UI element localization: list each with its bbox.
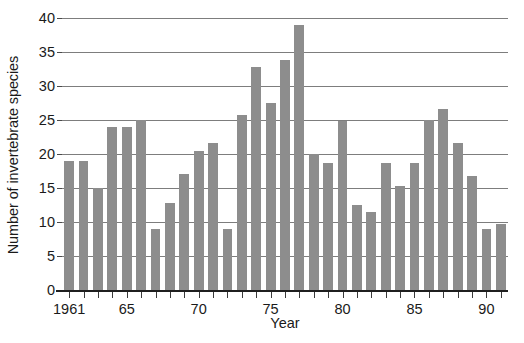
x-tick-mark (84, 292, 85, 298)
bar (136, 120, 146, 290)
x-tick-mark (213, 292, 214, 298)
x-tick-mark (458, 292, 459, 298)
x-tick-mark (443, 292, 444, 298)
bar-chart-figure: Number of invertebrate species 051015202… (0, 0, 524, 343)
x-tick-mark (472, 292, 473, 298)
x-tick-mark (328, 292, 329, 298)
bar (237, 115, 247, 290)
bar (352, 205, 362, 290)
bar (107, 127, 117, 290)
bar (280, 60, 290, 290)
bar (496, 224, 506, 290)
x-tick-mark (386, 292, 387, 298)
bar (64, 161, 74, 290)
bar (179, 174, 189, 290)
x-tick-mark (400, 292, 401, 298)
y-tick-label: 20 (39, 146, 55, 162)
y-tick-label: 40 (39, 10, 55, 26)
x-tick-mark (141, 292, 142, 298)
y-tick-label: 30 (39, 78, 55, 94)
bar (424, 120, 434, 290)
bar (266, 103, 276, 290)
x-tick-mark (486, 292, 487, 298)
x-tick-mark (357, 292, 358, 298)
bar (395, 186, 405, 290)
x-tick-mark (227, 292, 228, 298)
bar (323, 163, 333, 290)
bar (338, 121, 348, 290)
x-tick-mark (98, 292, 99, 298)
bar (223, 229, 233, 290)
x-tick-mark (242, 292, 243, 298)
bar (194, 151, 204, 290)
bar (453, 143, 463, 290)
y-axis-title: Number of invertebrate species (2, 5, 24, 305)
bar (122, 127, 132, 290)
bar (93, 188, 103, 290)
bar (309, 154, 319, 290)
y-tick-label: 5 (47, 248, 55, 264)
y-tick-label: 0 (47, 282, 55, 298)
y-tick-label: 15 (39, 180, 55, 196)
x-tick-mark (112, 292, 113, 298)
x-tick-mark (156, 292, 157, 298)
x-tick-mark (371, 292, 372, 298)
y-tick-label: 25 (39, 112, 55, 128)
x-tick-mark (69, 292, 70, 298)
bar (438, 109, 448, 290)
x-tick-mark (343, 292, 344, 298)
y-tick-label: 10 (39, 214, 55, 230)
x-axis-title: Year (62, 315, 508, 331)
x-tick-mark (184, 292, 185, 298)
y-tick-label: 35 (39, 44, 55, 60)
x-tick-mark (429, 292, 430, 298)
bar (467, 176, 477, 290)
bar (151, 229, 161, 290)
x-tick-mark (314, 292, 315, 298)
plot-area: 0510152025303540 1961657075808590 (62, 18, 508, 290)
x-tick-mark (285, 292, 286, 298)
x-tick-mark (127, 292, 128, 298)
x-tick-mark (199, 292, 200, 298)
x-tick-mark (414, 292, 415, 298)
x-tick-mark (256, 292, 257, 298)
bar (381, 163, 391, 290)
bar (410, 163, 420, 290)
x-tick-mark (299, 292, 300, 298)
bar (165, 203, 175, 290)
x-axis-line (56, 290, 508, 292)
bar (366, 212, 376, 290)
bar (294, 25, 304, 290)
x-tick-mark (271, 292, 272, 298)
bar (79, 161, 89, 290)
x-tick-mark (501, 292, 502, 298)
bar (208, 143, 218, 290)
bar (482, 229, 492, 290)
x-tick-mark (170, 292, 171, 298)
bar (251, 67, 261, 290)
bar-series (62, 18, 508, 290)
